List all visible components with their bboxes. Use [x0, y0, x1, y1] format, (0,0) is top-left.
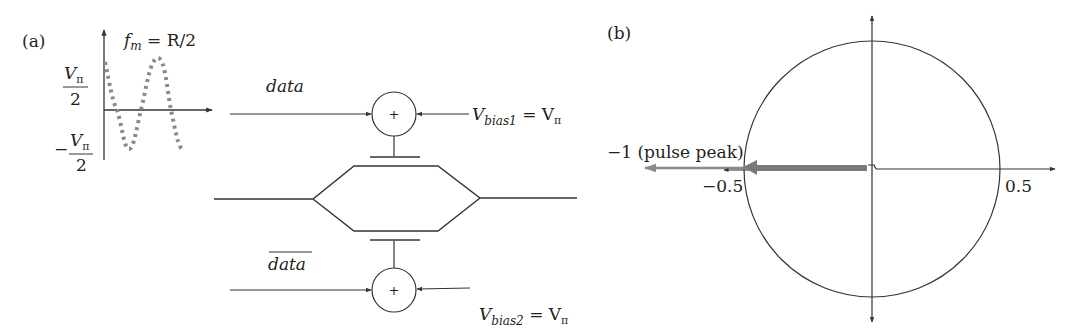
panel-a-label: (a): [22, 31, 45, 51]
svg-text:Vπ: Vπ: [70, 130, 90, 153]
svg-text:2: 2: [76, 155, 87, 175]
panel-b-label: (b): [607, 23, 631, 43]
bottom-drive-path: data + Vbias2 = Vπ: [230, 240, 568, 328]
svg-text:Vπ: Vπ: [64, 63, 84, 86]
data-bar-label: data: [268, 254, 306, 274]
drive-waveform-plot: fm = R/2 Vπ 2 − Vπ 2: [54, 30, 212, 175]
bias1-label: Vbias1 = Vπ: [472, 104, 561, 128]
svg-text:−: −: [54, 139, 68, 159]
tick-pos-half: 0.5: [1005, 176, 1032, 196]
svg-text:+: +: [389, 283, 400, 298]
y-label-top: Vπ 2: [63, 63, 88, 109]
bias2-label: Vbias2 = Vπ: [479, 304, 568, 328]
dotted-sine-wave: [105, 58, 184, 150]
data-label: data: [266, 76, 304, 96]
figure-canvas: (a) fm = R/2 Vπ 2 − Vπ 2: [0, 0, 1081, 336]
svg-text:2: 2: [70, 89, 81, 109]
pulse-peak-label: −1 (pulse peak): [607, 142, 744, 162]
mach-zehnder-waveguide: [214, 166, 577, 231]
phasor-half-head: [743, 160, 757, 175]
tick-neg-half: −0.5: [702, 176, 743, 196]
panel-b: (b) −1 (pulse peak) −0.5 0.5: [607, 16, 1055, 322]
y-label-bottom: − Vπ 2: [54, 130, 93, 175]
panel-a: (a) fm = R/2 Vπ 2 − Vπ 2: [22, 30, 577, 328]
top-drive-path: data + Vbias1 = Vπ: [230, 76, 561, 157]
svg-text:+: +: [389, 107, 400, 122]
fm-title: fm = R/2: [122, 30, 196, 53]
